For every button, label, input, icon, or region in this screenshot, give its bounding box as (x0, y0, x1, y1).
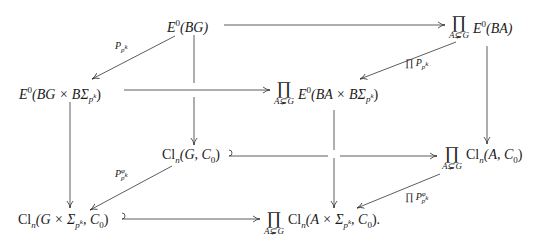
label-p-pk: Ppk (115, 40, 128, 54)
node-e0-bg-bsigma: E0(BG × BΣpk) (19, 82, 101, 107)
product-symbol: ∏A⊊G (442, 145, 462, 171)
label-prod-p-pk: ∏ Ppk (405, 57, 428, 71)
node-prod-cl-a: ∏A⊊GCln(A, C0) (442, 145, 522, 171)
node-e0-bg: E0(BG) (167, 15, 208, 36)
node-prod-cl-a-sigma: ∏A⊊GCln(A × Σpk, C0). (264, 210, 380, 236)
product-symbol: ∏A⊊G (264, 210, 284, 236)
arrow-p-phi-pk (90, 166, 172, 210)
product-symbol: ∏A⊊G (449, 14, 469, 40)
hook-cl-g-sigma (122, 213, 125, 219)
node-prod-e0-ba: ∏A⊊GE0(BA) (449, 14, 513, 40)
arrow-p-pk (92, 36, 175, 79)
label-prod-p-phi-pk: ∏ Pφpk (405, 190, 428, 205)
node-cl-g-sigma: Cln(G × Σpk, C0) (18, 212, 108, 233)
product-symbol: ∏A⊊G (274, 80, 294, 106)
node-prod-e0-ba-bsigma: ∏A⊊GE0(BA × BΣpk) (274, 80, 378, 109)
label-p-phi-pk: Pφpk (115, 167, 128, 182)
node-cl-g: Cln(G, C0) (162, 147, 220, 168)
hook-cl-g (229, 150, 232, 156)
